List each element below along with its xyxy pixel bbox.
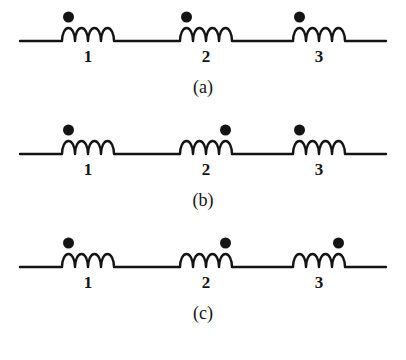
polarity-dot xyxy=(333,238,344,249)
coil-label: 1 xyxy=(73,161,103,178)
panel-a: 123(a) xyxy=(0,0,406,113)
coil-label: 1 xyxy=(73,274,103,291)
polarity-dot xyxy=(294,125,305,136)
conductor-path xyxy=(20,28,386,41)
panel-caption: (c) xyxy=(0,304,406,322)
panel-caption: (b) xyxy=(0,191,406,209)
coil-label: 2 xyxy=(191,48,221,65)
conductor-path xyxy=(20,254,386,267)
inductor-dot-convention-figure: 123(a)123(b)123(c) xyxy=(0,0,406,360)
polarity-dot xyxy=(63,12,74,23)
coil-label: 2 xyxy=(191,161,221,178)
coil-label: 3 xyxy=(304,274,334,291)
conductor-path xyxy=(20,141,386,154)
panel-b: 123(b) xyxy=(0,113,406,226)
coil-label: 3 xyxy=(304,161,334,178)
polarity-dot xyxy=(220,238,231,249)
polarity-dot xyxy=(63,125,74,136)
polarity-dot xyxy=(220,125,231,136)
polarity-dot xyxy=(181,12,192,23)
coil-label: 3 xyxy=(304,48,334,65)
panel-c: 123(c) xyxy=(0,226,406,339)
panel-caption: (a) xyxy=(0,78,406,96)
coil-label: 2 xyxy=(191,274,221,291)
polarity-dot xyxy=(63,238,74,249)
coil-label: 1 xyxy=(73,48,103,65)
polarity-dot xyxy=(294,12,305,23)
